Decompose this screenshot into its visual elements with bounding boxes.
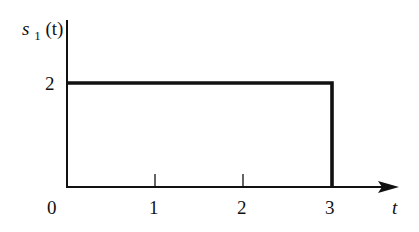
x-axis-label: t [392,197,398,218]
signal-plot: 0 1 2 3 t 2 s 1 (t) [0,0,419,232]
y-axis-label: s 1 (t) [22,18,63,44]
x-label-0: 0 [47,197,57,218]
x-label-2: 2 [237,197,247,218]
y-axis-label-sub: 1 [34,28,41,43]
x-label-3: 3 [325,197,335,218]
y-tick-label-2: 2 [45,73,55,94]
pulse-signal [67,83,332,188]
y-axis-label-arg: (t) [45,18,63,40]
x-label-1: 1 [149,197,159,218]
y-axis-label-main: s [22,18,29,39]
